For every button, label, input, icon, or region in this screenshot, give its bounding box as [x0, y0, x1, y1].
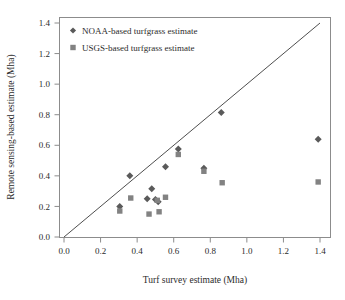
y-tick-label: 1.4	[39, 18, 51, 28]
x-tick-label: 1.0	[241, 246, 253, 256]
data-point	[175, 146, 182, 153]
legend-marker-usgs	[70, 45, 75, 50]
data-point	[201, 169, 206, 174]
data-point	[126, 172, 133, 179]
data-point	[219, 180, 224, 185]
series-noaa	[116, 109, 321, 210]
y-axis-title: Remote sensing-based estimate (Mha)	[6, 54, 17, 199]
legend-label: NOAA-based turfgrass estimate	[82, 26, 197, 36]
data-points-layer	[116, 109, 321, 217]
x-tick-label: 0.0	[58, 246, 70, 256]
data-point	[148, 185, 155, 192]
data-point	[218, 109, 225, 116]
data-point	[163, 195, 168, 200]
data-point	[156, 209, 161, 214]
data-point	[117, 208, 122, 213]
x-tick-label: 1.4	[314, 246, 326, 256]
data-point	[128, 195, 133, 200]
y-tick-label: 0.0	[39, 232, 51, 242]
y-tick-label: 0.2	[39, 202, 50, 212]
x-tick-label: 0.6	[168, 246, 180, 256]
y-axis-ticks: 0.00.20.40.60.81.01.21.4	[39, 18, 60, 242]
x-tick-label: 1.2	[278, 246, 289, 256]
x-tick-label: 0.8	[205, 246, 217, 256]
data-point	[176, 152, 181, 157]
data-point	[144, 195, 151, 202]
one-to-one-reference-line	[64, 23, 320, 237]
legend-label: USGS-based turfgrass estimate	[82, 43, 194, 53]
data-point	[315, 179, 320, 184]
y-tick-label: 1.2	[39, 49, 50, 59]
plot-canvas: 0.00.20.40.60.81.01.21.4 0.00.20.40.60.8…	[0, 0, 345, 300]
y-tick-label: 0.4	[39, 171, 51, 181]
x-tick-label: 0.2	[95, 246, 106, 256]
x-axis-title: Turf survey estimate (Mha)	[143, 275, 247, 286]
data-point	[315, 136, 322, 143]
y-tick-label: 0.8	[39, 110, 51, 120]
series-usgs	[117, 152, 321, 217]
scatter-plot-figure: 0.00.20.40.60.81.01.21.4 0.00.20.40.60.8…	[0, 0, 345, 300]
y-tick-label: 0.6	[39, 140, 51, 150]
legend-marker-noaa	[70, 27, 76, 33]
data-point	[155, 198, 160, 203]
y-tick-label: 1.0	[39, 79, 51, 89]
x-axis-ticks: 0.00.20.40.60.81.01.21.4	[58, 238, 326, 257]
data-point	[162, 163, 169, 170]
chart-legend: NOAA-based turfgrass estimateUSGS-based …	[70, 26, 198, 53]
x-tick-label: 0.4	[132, 246, 144, 256]
one-to-one-line	[64, 23, 320, 237]
data-point	[146, 211, 151, 216]
